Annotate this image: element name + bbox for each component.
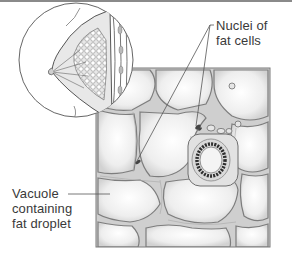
adipose-tissue-block	[96, 68, 270, 247]
label-vacuole-containing-fat-droplet: Vacuole containing fat droplet	[12, 186, 72, 231]
label-nuclei-line1: Nuclei of	[216, 18, 267, 33]
blood-vessel	[188, 134, 238, 186]
label-vacuole-line2: containing	[12, 201, 72, 216]
label-vacuole-line3: fat droplet	[12, 216, 72, 231]
label-nuclei-line2: fat cells	[216, 33, 267, 48]
label-vacuole-line1: Vacuole	[12, 186, 72, 201]
label-nuclei-of-fat-cells: Nuclei of fat cells	[216, 18, 267, 48]
